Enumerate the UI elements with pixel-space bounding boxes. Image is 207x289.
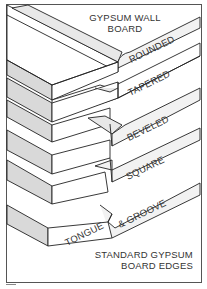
figure-caption: STANDARD GYPSUM BOARD EDGES	[80, 249, 193, 271]
gypsum-board-illustration: ROUNDED TAPERED BEVELED SQUARE TONGUE & …	[0, 0, 207, 289]
figure-title: GYPSUM WALL BOARD	[85, 12, 165, 34]
figure-caption-line2: BOARD EDGES	[80, 260, 193, 271]
figure-marker	[6, 284, 16, 285]
figure-title-line1: GYPSUM WALL	[85, 12, 165, 23]
figure-title-line2: BOARD	[85, 23, 165, 34]
board-tongue-and-groove	[7, 160, 200, 246]
figure-caption-line1: STANDARD GYPSUM	[80, 249, 193, 260]
